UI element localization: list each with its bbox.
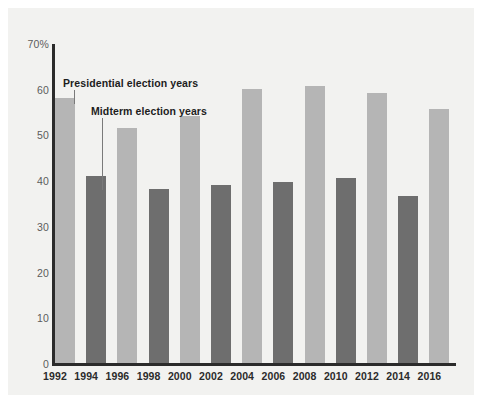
y-tick-label: 10 [9,312,49,324]
y-tick-label: 50 [9,129,49,141]
bar-1992[interactable] [55,98,75,363]
bar-slot [149,8,169,363]
y-tick-label: 60 [9,84,49,96]
y-tick-label: 70% [9,38,49,50]
bar-2004[interactable] [242,89,262,363]
bar-slot [336,8,356,363]
bar-2016[interactable] [429,109,449,363]
x-axis: 1992199419961998200020022004200620082010… [55,370,465,390]
bar-2014[interactable] [398,196,418,363]
chart-figure: 010203040506070% 19921994199619982000200… [8,8,474,395]
bar-2006[interactable] [273,182,293,363]
bar-2012[interactable] [367,93,387,363]
annotation-presidential-leader-line [74,90,75,104]
bar-slot [273,8,293,363]
bar-slot [55,8,75,363]
bar-2000[interactable] [180,116,200,363]
bar-slot [242,8,262,363]
bar-slot [86,8,106,363]
bar-2010[interactable] [336,178,356,363]
annotation-presidential-label: Presidential election years [63,77,198,89]
x-tick-label-2016: 2016 [409,370,449,382]
y-tick-label: 20 [9,267,49,279]
bar-slot [367,8,387,363]
annotation-midterm-label: Midterm election years [91,105,207,117]
bar-2008[interactable] [305,86,325,363]
bar-1994[interactable] [86,176,106,363]
bar-slot [211,8,231,363]
y-tick-label: 40 [9,175,49,187]
bar-slot [117,8,137,363]
y-tick-label: 0 [9,358,49,370]
bar-1998[interactable] [149,189,169,363]
bar-slot [429,8,449,363]
y-tick-label: 30 [9,221,49,233]
bar-slot [398,8,418,363]
bar-1996[interactable] [117,128,137,363]
bar-slot [180,8,200,363]
y-axis: 010203040506070% [8,8,49,395]
bar-slot [305,8,325,363]
annotation-midterm-leader-line [102,118,103,190]
bars-group [55,8,465,366]
bar-2002[interactable] [211,185,231,363]
